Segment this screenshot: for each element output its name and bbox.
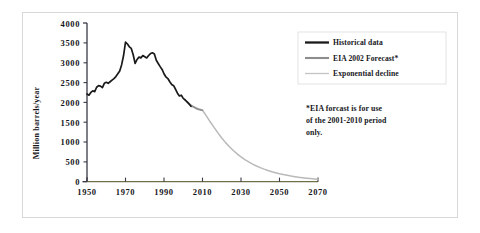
y-tick-label: 3000 <box>61 58 80 68</box>
footnote-line: of the 2001-2010 period <box>306 116 387 125</box>
y-tick-label: 4000 <box>61 19 80 29</box>
x-tick-labels: 1950 1970 1990 2010 2030 2050 2070 <box>77 187 327 197</box>
series-line-historical-data <box>87 42 191 106</box>
x-axis <box>87 177 318 182</box>
oil-production-line-chart: Million barrels/year 4000 3500 3000 2500… <box>23 13 457 217</box>
legend-label: EIA 2002 Forecast* <box>333 54 398 63</box>
footnote: *EIA forcast is for use of the 2001-2010… <box>306 104 387 137</box>
x-tick-label: 2070 <box>308 187 327 197</box>
y-tick-label: 500 <box>65 157 80 167</box>
legend-label: Historical data <box>333 38 383 47</box>
y-tick-label: 3500 <box>61 38 80 48</box>
y-axis-label: Million barrels/year <box>32 87 41 160</box>
x-tick-label: 2030 <box>231 187 250 197</box>
chart-figure: Million barrels/year 4000 3500 3000 2500… <box>22 12 458 218</box>
y-tick-label: 1000 <box>61 137 80 147</box>
y-axis-label-text: Million barrels/year <box>32 87 41 160</box>
data-series-group <box>87 42 318 179</box>
y-tick-label: 1500 <box>61 118 80 128</box>
y-tick-label: 2500 <box>61 78 80 88</box>
footnote-line: *EIA forcast is for use <box>306 104 383 113</box>
y-tick-labels: 4000 3500 3000 2500 2000 1500 1000 500 0 <box>61 19 80 187</box>
y-axis <box>83 23 88 182</box>
x-tick-label: 2050 <box>270 187 289 197</box>
y-tick-label: 0 <box>75 177 80 187</box>
legend: Historical data EIA 2002 Forecast* Expon… <box>298 32 446 84</box>
series-line-exponential-decline <box>191 106 318 179</box>
x-tick-label: 1990 <box>154 187 173 197</box>
x-tick-label: 2010 <box>193 187 212 197</box>
footnote-line: only. <box>306 128 322 137</box>
x-tick-label: 1970 <box>116 187 135 197</box>
legend-label: Exponential decline <box>333 69 399 78</box>
x-tick-label: 1950 <box>77 187 96 197</box>
y-tick-label: 2000 <box>61 98 80 108</box>
